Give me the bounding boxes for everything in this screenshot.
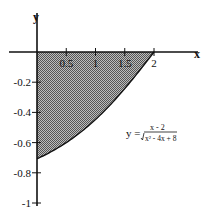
chart: 0.511.52-0.2-0.4-0.6-0.8-1 y x y = x - 2…	[0, 0, 209, 221]
x-tick-label: 2	[151, 57, 157, 69]
x-axis-label: x	[194, 47, 200, 61]
sqrt-sign	[141, 133, 144, 140]
y-tick-label: -0.2	[14, 76, 31, 88]
x-tick-label: 1.5	[118, 57, 132, 69]
x-tick-label: 1	[93, 57, 99, 69]
formula-annotation: y = x - 2 x² - 4x + 8	[126, 123, 177, 143]
formula-lhs: y =	[126, 127, 140, 139]
formula-numerator: x - 2	[150, 123, 165, 132]
y-axis-label: y	[33, 10, 39, 24]
y-tick-label: -0.8	[14, 167, 32, 179]
y-tick-label: -0.4	[14, 106, 32, 118]
y-tick-label: -1	[22, 197, 31, 209]
y-tick-label: -0.6	[14, 137, 32, 149]
x-tick-label: 0.5	[59, 57, 73, 69]
formula-denominator: x² - 4x + 8	[145, 134, 177, 143]
